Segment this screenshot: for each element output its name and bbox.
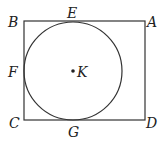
label-d: D	[145, 115, 157, 131]
center-point-k	[71, 69, 75, 73]
label-g: G	[68, 124, 79, 140]
label-a: A	[145, 14, 157, 30]
geometry-diagram: B A E F K C G D	[0, 0, 165, 143]
label-k: K	[76, 64, 89, 80]
label-c: C	[9, 115, 20, 131]
label-f: F	[7, 64, 19, 80]
label-b: B	[7, 14, 18, 30]
label-e: E	[66, 5, 77, 21]
